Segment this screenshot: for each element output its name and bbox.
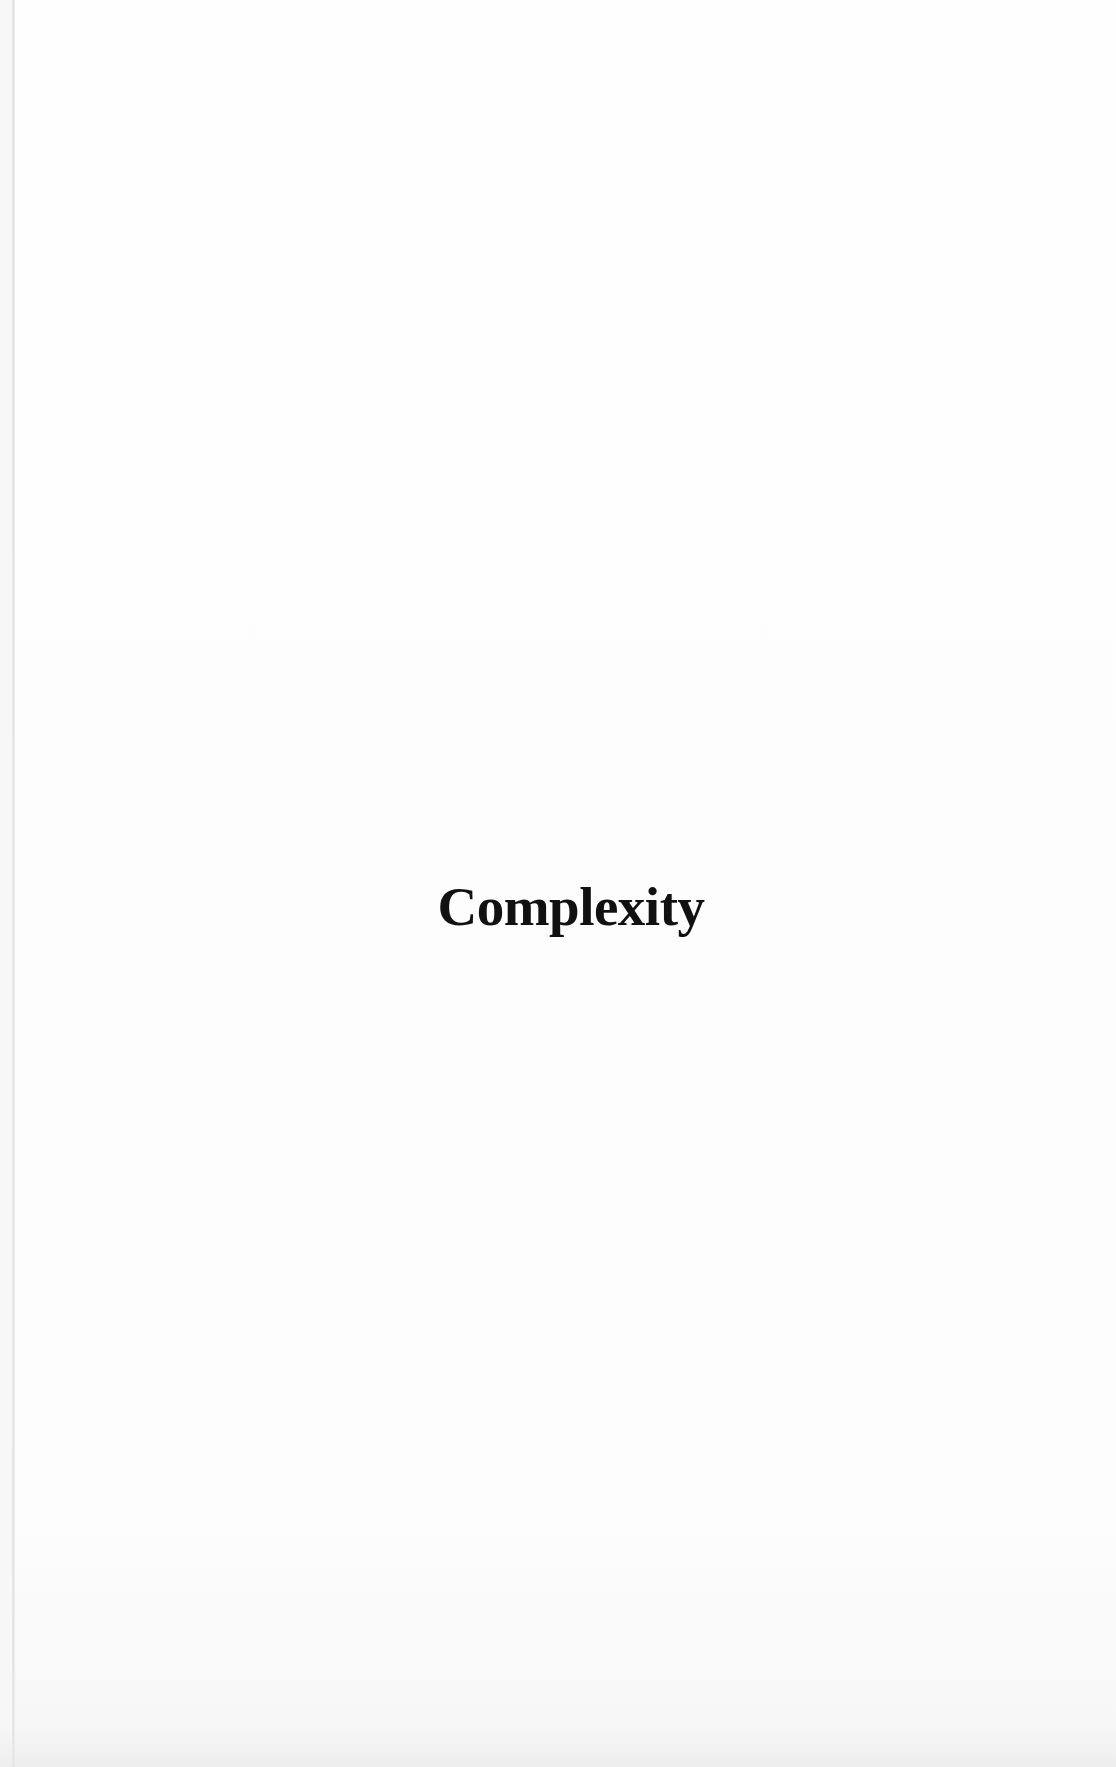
page-bottom-edge-shade [0, 1727, 1116, 1767]
chapter-title: Complexity [0, 872, 1116, 942]
book-page: Complexity [0, 0, 1116, 1767]
